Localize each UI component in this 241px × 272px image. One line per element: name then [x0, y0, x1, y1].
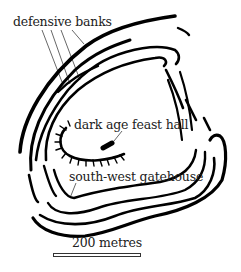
label-gatehouse: south-west gatehouse	[69, 171, 203, 184]
label-feast-hall: dark age feast hall	[74, 119, 188, 132]
feast-hall	[103, 131, 122, 148]
scale-label: 200 metres	[72, 237, 142, 250]
scale-bar	[53, 253, 141, 257]
label-defensive-banks: defensive banks	[13, 16, 112, 29]
hillfort-plan	[0, 0, 241, 272]
gatehouse-leader	[70, 183, 76, 198]
